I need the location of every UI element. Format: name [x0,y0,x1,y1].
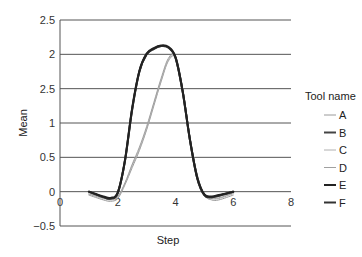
series-line-b [89,46,233,199]
y-tick-label: 2.5 [40,14,55,26]
y-axis-label: Mean [17,109,29,137]
legend-item-c: C [324,144,347,156]
x-axis-label: Step [157,234,180,246]
x-tick-label: 6 [230,196,236,208]
legend: Tool name ABCDEF [305,90,356,209]
x-tick-label: 8 [288,196,294,208]
line-chart: 2.522.510.50−0.5 02468 Step Mean Tool na… [0,0,362,257]
series-line-f [89,46,233,199]
y-tick-label: 2.5 [40,83,55,95]
series-line-e [89,45,233,198]
y-tick-label: 0 [49,186,55,198]
legend-item-b: B [324,127,346,139]
legend-label: B [339,127,346,139]
legend-label: A [339,109,347,121]
series-line-d [89,53,233,199]
y-axis-ticks: 2.522.510.50−0.5 [33,14,55,232]
x-axis-ticks: 02468 [57,196,294,208]
legend-item-a: A [324,109,347,121]
legend-item-d: D [324,162,347,174]
y-tick-label: 0.5 [40,151,55,163]
legend-label: C [339,144,347,156]
legend-title: Tool name [305,90,356,102]
series-line-c [89,54,233,200]
legend-item-e: E [324,179,346,191]
y-tick-label: 1 [49,117,55,129]
legend-item-f: F [324,197,346,209]
legend-label: F [339,197,346,209]
legend-label: E [339,179,346,191]
legend-label: D [339,162,347,174]
y-tick-label: −0.5 [33,220,55,232]
x-tick-label: 4 [172,196,178,208]
y-tick-label: 2 [49,48,55,60]
